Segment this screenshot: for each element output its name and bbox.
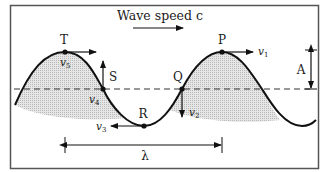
- point-q-label: Q: [173, 70, 183, 84]
- point-s-label: S: [109, 70, 117, 84]
- wave-diagram: Wave speed c T v5 S v4 R v3 Q v2 P v1 A …: [0, 0, 325, 172]
- point-t-label: T: [60, 33, 68, 47]
- point-p-label: P: [218, 33, 226, 47]
- amplitude-label: A: [296, 63, 306, 77]
- point-r-label: R: [138, 107, 148, 121]
- wave-speed-label: Wave speed c: [117, 8, 203, 23]
- wavelength-label: λ: [141, 149, 149, 163]
